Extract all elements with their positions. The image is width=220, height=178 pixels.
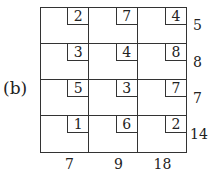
- table-cell: 2: [138, 116, 186, 152]
- table-cell: 1: [41, 116, 89, 152]
- table-cell: 7: [138, 80, 186, 116]
- demand-value: 18: [138, 156, 187, 172]
- cost-box: 5: [67, 80, 88, 97]
- demand-value: 9: [94, 156, 143, 172]
- supply-value: 7: [193, 90, 202, 106]
- table-cell: 4: [89, 44, 137, 80]
- cost-box: 6: [116, 116, 137, 133]
- cost-box: 7: [165, 80, 186, 97]
- cost-box: 1: [67, 116, 88, 133]
- cost-box: 4: [165, 8, 186, 25]
- table-cell: 4: [138, 8, 186, 44]
- cost-box: 3: [116, 80, 137, 97]
- transportation-table: 2 7 4 3 4 8 5 3 7 1 6 2: [40, 7, 187, 153]
- demand-value: 7: [45, 156, 94, 172]
- table-cell: 3: [41, 44, 89, 80]
- cost-box: 2: [67, 8, 88, 25]
- supply-value: 14: [190, 126, 208, 142]
- figure-label: (b): [3, 78, 27, 98]
- cost-box: 4: [116, 44, 137, 61]
- supply-value: 5: [193, 17, 202, 33]
- table-cell: 7: [89, 8, 137, 44]
- table-cell: 2: [41, 8, 89, 44]
- table-cell: 3: [89, 80, 137, 116]
- supply-value: 8: [193, 54, 202, 70]
- cost-box: 2: [165, 116, 186, 133]
- cost-box: 8: [165, 44, 186, 61]
- cost-box: 3: [67, 44, 88, 61]
- table-cell: 5: [41, 80, 89, 116]
- cost-box: 7: [116, 8, 137, 25]
- table-cell: 8: [138, 44, 186, 80]
- table-cell: 6: [89, 116, 137, 152]
